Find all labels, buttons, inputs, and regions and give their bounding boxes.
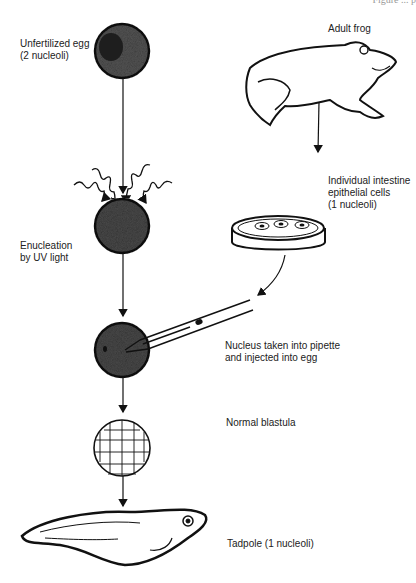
unfertilized-egg-icon	[95, 24, 149, 78]
tadpole-icon	[22, 510, 206, 565]
label-line: Enucleation	[20, 240, 72, 252]
nuclear-transplant-diagram	[0, 0, 416, 583]
label-unfertilized-egg: Unfertilized egg (2 nucleoli)	[20, 38, 89, 62]
adult-frog-icon	[246, 42, 396, 125]
label-intestine-cells: Individual intestine epithelial cells (1…	[328, 175, 410, 211]
label-line: (2 nucleoli)	[20, 50, 89, 62]
label-nucleus-injection: Nucleus taken into pipette and injected …	[225, 340, 340, 364]
label-adult-frog: Adult frog	[328, 23, 371, 35]
label-blastula: Normal blastula	[226, 417, 295, 429]
blastula-icon	[94, 420, 150, 476]
label-line: epithelial cells	[328, 187, 410, 199]
label-enucleation: Enucleation by UV light	[20, 240, 72, 264]
label-line: and injected into egg	[225, 352, 340, 364]
petri-dish-icon	[232, 216, 325, 250]
label-line: by UV light	[20, 252, 72, 264]
label-line: (1 nucleoli)	[328, 199, 410, 211]
label-line: Unfertilized egg	[20, 38, 89, 50]
label-line: Nucleus taken into pipette	[225, 340, 340, 352]
enucleated-egg-icon	[95, 199, 149, 253]
label-line: Individual intestine	[328, 175, 410, 187]
label-tadpole: Tadpole (1 nucleoli)	[227, 538, 314, 550]
